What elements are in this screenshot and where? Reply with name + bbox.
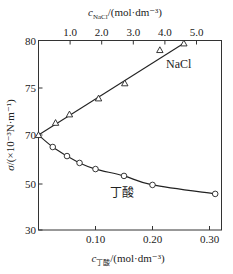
plot-frame bbox=[39, 41, 222, 231]
top-axis-title: cNaCl/(mol·dm⁻³) bbox=[88, 6, 162, 21]
nacl-series-label: NaCl bbox=[166, 57, 192, 71]
y-tick-label: 80 bbox=[25, 35, 37, 47]
circle-marker bbox=[150, 182, 156, 188]
circle-marker bbox=[64, 153, 70, 159]
y-tick-label: 75 bbox=[25, 82, 37, 94]
top-tick-label: 3.0 bbox=[126, 26, 140, 38]
top-tick-label: 5.0 bbox=[190, 26, 204, 38]
triangle-marker bbox=[157, 47, 163, 53]
circle-marker bbox=[77, 160, 83, 166]
surface-tension-chart: cNaCl/(mol·dm⁻³) 1.02.03.04.05.0 3050707… bbox=[0, 0, 233, 274]
nacl-curve bbox=[39, 43, 184, 135]
y-tick-label: 50 bbox=[25, 178, 37, 190]
triangle-marker bbox=[122, 80, 128, 86]
circle-marker bbox=[93, 166, 99, 172]
y-axis-title: σ/(×10⁻³N·m⁻¹) bbox=[4, 99, 17, 171]
bottom-axis-title: c丁酸/(mol·dm⁻³) bbox=[91, 252, 165, 267]
top-tick-labels: 1.02.03.04.05.0 bbox=[63, 26, 204, 38]
butyric-series-label: 丁酸 bbox=[110, 185, 134, 200]
bottom-tick-label: 0.30 bbox=[200, 233, 220, 245]
top-tick-label: 1.0 bbox=[63, 26, 77, 38]
triangle-marker bbox=[181, 40, 187, 46]
y-tick-labels: 3050707580 bbox=[25, 35, 37, 237]
top-tick-label: 4.0 bbox=[158, 26, 172, 38]
y-tick-label: 70 bbox=[25, 129, 37, 141]
circle-marker bbox=[121, 173, 127, 179]
y-tick-label: 30 bbox=[25, 224, 37, 236]
bottom-tick-labels: 0.100.200.30 bbox=[86, 233, 220, 245]
bottom-tick-label: 0.20 bbox=[143, 233, 163, 245]
circle-marker bbox=[50, 144, 56, 150]
bottom-tick-label: 0.10 bbox=[86, 233, 106, 245]
circle-marker bbox=[212, 191, 218, 197]
top-tick-label: 2.0 bbox=[95, 26, 109, 38]
